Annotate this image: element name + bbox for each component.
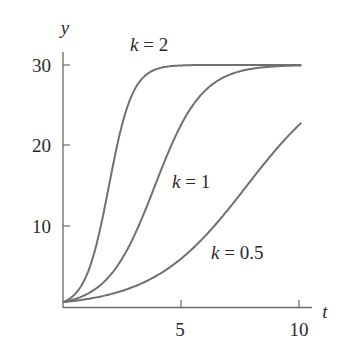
y-axis-title: y — [59, 17, 70, 38]
y-tick-label-20: 20 — [32, 135, 51, 156]
y-tick-label-10: 10 — [32, 216, 51, 237]
curve-label-k1: k = 1 — [172, 171, 210, 192]
curve-label-k1-text: = 1 — [180, 171, 210, 192]
curve-05-line — [63, 123, 301, 302]
x-tick-label-5: 5 — [175, 319, 185, 340]
logistic-chart: 30 20 10 5 10 y t k = 2 k = 1 k = 0.5 — [0, 0, 344, 357]
x-tick-label-10: 10 — [290, 319, 309, 340]
curve-label-k05: k = 0.5 — [211, 242, 263, 263]
curve-label-k2-text: = 2 — [138, 34, 168, 55]
y-tick-label-30: 30 — [32, 55, 51, 76]
curve-label-k05-text: = 0.5 — [219, 242, 263, 263]
curve-label-k2: k = 2 — [130, 34, 168, 55]
x-axis-title: t — [322, 301, 328, 322]
